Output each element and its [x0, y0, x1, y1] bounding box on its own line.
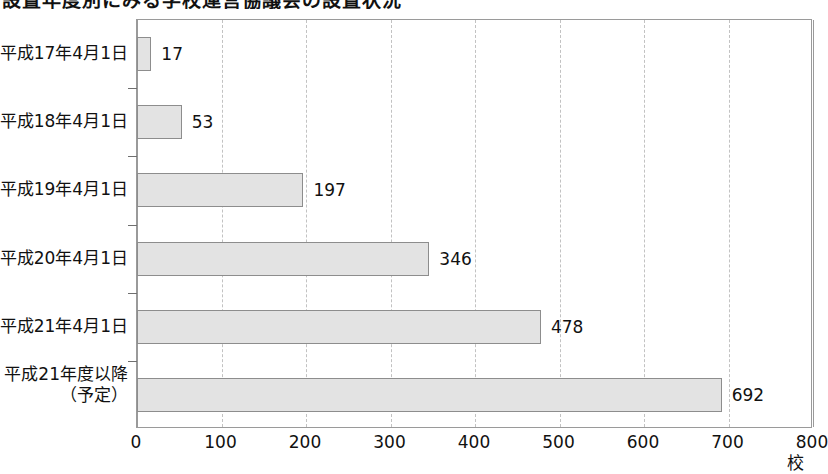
x-axis-tick-label: 600	[627, 432, 659, 452]
bar-value-label: 197	[313, 180, 345, 200]
x-axis-tick-label: 300	[373, 432, 405, 452]
bar-value-label: 478	[551, 317, 583, 337]
y-axis-label-line1: 平成18年4月1日	[0, 111, 128, 131]
bar-value-label: 17	[161, 44, 183, 64]
y-axis-label-line2: （予定）	[4, 385, 128, 406]
y-axis-tick	[128, 88, 137, 89]
y-axis-tick	[128, 361, 137, 362]
y-axis-label: 平成21年4月1日	[0, 315, 128, 336]
bar-row: 692	[137, 361, 811, 429]
x-axis-tick-label: 700	[711, 432, 743, 452]
chart-title-text: 設置年度別にみる学校運営協議会の設置状況	[2, 0, 402, 9]
bar-row: 478	[137, 293, 811, 361]
bar-row: 17	[137, 20, 811, 88]
bar-row: 346	[137, 225, 811, 293]
y-axis-tick	[128, 225, 137, 226]
y-axis-label-line1: 平成17年4月1日	[0, 43, 128, 63]
bar-series: 1753197346478692	[137, 20, 811, 427]
bar	[137, 242, 429, 276]
y-axis-label-line1: 平成19年4月1日	[0, 179, 128, 199]
x-axis-tick-label: 0	[131, 432, 142, 452]
chart-title-clipped: 設置年度別にみる学校運営協議会の設置状況	[0, 0, 824, 9]
x-axis-tick-label: 500	[542, 432, 574, 452]
y-axis-label-line1: 平成21年4月1日	[0, 315, 128, 335]
bar-value-label: 53	[192, 112, 214, 132]
x-axis-labels: 0100200300400500600700800	[136, 428, 812, 458]
y-axis-label-line1: 平成20年4月1日	[0, 247, 128, 267]
x-axis-tick-label: 100	[204, 432, 236, 452]
bar	[137, 37, 151, 71]
y-axis-label: 平成17年4月1日	[0, 43, 128, 64]
x-axis-unit: 校	[787, 449, 804, 474]
y-axis-labels: 平成17年4月1日平成18年4月1日平成19年4月1日平成20年4月1日平成21…	[0, 19, 134, 428]
plot-area: 1753197346478692	[136, 19, 812, 428]
bar-value-label: 692	[732, 385, 764, 405]
bar	[137, 310, 541, 344]
gridline-800	[813, 20, 814, 427]
bar	[137, 378, 722, 412]
bar	[137, 173, 303, 207]
y-axis-label: 平成20年4月1日	[0, 247, 128, 268]
bar-value-label: 346	[439, 249, 471, 269]
x-axis-tick-label: 200	[289, 432, 321, 452]
y-axis-label-line1: 平成21年度以降	[4, 364, 128, 384]
y-axis-label: 平成18年4月1日	[0, 111, 128, 132]
bar-row: 53	[137, 88, 811, 156]
y-axis-label: 平成19年4月1日	[0, 179, 128, 200]
x-axis-tick-label: 400	[458, 432, 490, 452]
bar	[137, 105, 182, 139]
y-axis-label: 平成21年度以降（予定）	[4, 364, 128, 406]
y-axis-tick	[128, 293, 137, 294]
bar-row: 197	[137, 156, 811, 224]
y-axis-tick	[128, 156, 137, 157]
